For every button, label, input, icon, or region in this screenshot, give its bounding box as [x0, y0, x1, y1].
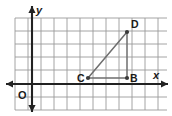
coordinate-grid-figure: CBD x y O — [0, 0, 172, 116]
point-dot-c — [86, 76, 90, 80]
point-label-b: B — [130, 72, 138, 84]
point-dot-b — [125, 76, 129, 80]
y-axis-label: y — [35, 4, 43, 16]
x-axis-label: x — [152, 69, 160, 81]
origin-label: O — [18, 89, 27, 101]
point-dot-d — [125, 30, 129, 34]
point-label-d: D — [131, 18, 139, 30]
coordinate-plane-svg: CBD x y O — [0, 0, 172, 116]
point-label-c: C — [77, 72, 85, 84]
